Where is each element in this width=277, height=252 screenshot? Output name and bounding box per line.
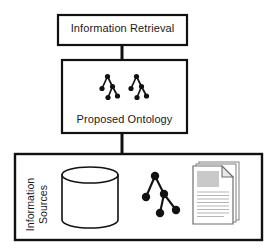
database-cylinder-icon: [62, 167, 118, 228]
label-information-sources-line-1: Information: [24, 178, 36, 232]
label-information-sources-line-2: Sources: [36, 185, 48, 224]
label-proposed-ontology: Proposed Ontology: [62, 113, 187, 125]
document-stack-icon: [193, 162, 239, 224]
label-information-retrieval: Information Retrieval: [58, 22, 187, 34]
label-information-sources: InformationSources: [24, 162, 49, 248]
diagram-canvas: Information Retrieval Proposed Ontology …: [0, 0, 277, 252]
document-image-block: [197, 171, 219, 187]
